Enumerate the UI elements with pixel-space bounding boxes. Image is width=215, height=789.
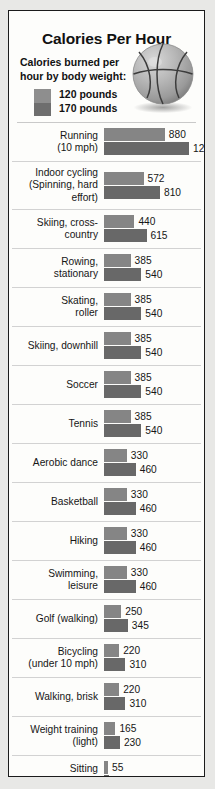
activity-label-line: Bicycling <box>12 646 98 658</box>
bar-value: 75 <box>113 775 124 777</box>
legend-label-120: 120 pounds <box>59 88 117 102</box>
bar-value: 460 <box>140 463 157 476</box>
bar-120lb <box>104 722 115 735</box>
bar-line-120lb: 572 <box>104 172 165 185</box>
bar-line-120lb: 330 <box>104 488 148 501</box>
bar-line-120lb: 220 <box>104 644 140 657</box>
bar-line-170lb: 310 <box>104 697 146 710</box>
activity-bars: 385540 <box>104 332 201 360</box>
bar-line-170lb: 540 <box>104 268 162 281</box>
basketball-svg <box>131 42 195 106</box>
bar-120lb <box>104 254 131 267</box>
bar-170lb <box>104 736 120 749</box>
bar-value: 540 <box>145 268 162 281</box>
bar-120lb <box>104 449 127 462</box>
activity-label-line: (under 10 mph) <box>12 658 98 670</box>
bar-value: 810 <box>164 186 181 199</box>
activity-bars: 330460 <box>104 527 201 555</box>
activity-label: Bicycling(under 10 mph) <box>12 646 104 671</box>
bar-line-170lb: 230 <box>104 736 141 749</box>
activity-label-line: Soccer <box>12 379 98 391</box>
activity-label-line: Basketball <box>12 496 98 508</box>
activity-row: Sitting(Watching TV)5575 <box>12 756 201 777</box>
bar-value: 540 <box>145 424 162 437</box>
bar-line-170lb: 460 <box>104 463 157 476</box>
legend-swatch <box>34 89 51 116</box>
activity-label-line: effort) <box>12 192 98 204</box>
activity-label-line: Tennis <box>12 418 98 430</box>
bar-170lb <box>104 229 147 242</box>
activity-label: Basketball <box>12 496 104 508</box>
activity-label-line: Skiing, cross- <box>12 217 98 229</box>
activity-label-line: stationary <box>12 268 98 280</box>
bar-line-120lb: 880 <box>104 128 186 141</box>
activity-label: Hiking <box>12 535 104 547</box>
bar-120lb <box>104 644 119 657</box>
activity-bars: 330460 <box>104 449 201 477</box>
bar-120lb <box>104 172 144 185</box>
activity-row: Soccer385540 <box>12 366 201 405</box>
activity-label-line: Skating, <box>12 295 98 307</box>
bar-value: 460 <box>140 580 157 593</box>
activity-bars: 572810 <box>104 172 201 200</box>
bar-value: 330 <box>131 566 148 579</box>
activity-label: Rowing,stationary <box>12 256 104 281</box>
bar-line-120lb: 385 <box>104 254 152 267</box>
bar-170lb <box>104 619 128 632</box>
activity-label: Indoor cycling(Spinning, hardeffort) <box>12 167 104 204</box>
activity-row: Hiking330460 <box>12 522 201 561</box>
activity-bars: 330460 <box>104 566 201 594</box>
activity-label-line: Sitting <box>12 763 98 775</box>
bar-120lb <box>104 410 131 423</box>
activity-row: Skiing, downhill385540 <box>12 327 201 366</box>
activity-label: Tennis <box>12 418 104 430</box>
bar-value: 385 <box>135 371 152 384</box>
bar-170lb <box>104 658 125 671</box>
activity-row: Walking, brisk220310 <box>12 678 201 717</box>
activity-label: Skiing, cross-country <box>12 217 104 242</box>
activity-row: Rowing,stationary385540 <box>12 249 201 288</box>
bar-value: 330 <box>131 488 148 501</box>
bar-line-170lb: 460 <box>104 502 157 515</box>
bar-170lb <box>104 142 189 155</box>
activity-row: Indoor cycling(Spinning, hardeffort)5728… <box>12 162 201 210</box>
bar-120lb <box>104 683 119 696</box>
activity-bars: 385540 <box>104 254 201 282</box>
bar-line-120lb: 250 <box>104 605 142 618</box>
bar-line-120lb: 330 <box>104 527 148 540</box>
activity-label-line: Walking, brisk <box>12 691 98 703</box>
bar-120lb <box>104 488 127 501</box>
bar-value: 880 <box>169 128 186 141</box>
activity-label: Walking, brisk <box>12 691 104 703</box>
bar-line-120lb: 330 <box>104 449 148 462</box>
activity-bars: 385540 <box>104 410 201 438</box>
activity-label: Swimming,leisure <box>12 568 104 593</box>
activity-row: Skating,roller385540 <box>12 288 201 327</box>
bar-line-170lb: 810 <box>104 186 181 199</box>
activity-row: Tennis385540 <box>12 405 201 444</box>
bar-value: 385 <box>135 410 152 423</box>
bar-value: 385 <box>135 332 152 345</box>
bar-value: 310 <box>129 697 146 710</box>
bar-value: 385 <box>135 254 152 267</box>
bar-170lb <box>104 463 136 476</box>
bar-value: 220 <box>123 683 140 696</box>
activity-label: Sitting(Watching TV) <box>12 763 104 777</box>
activity-label-line: (Watching TV) <box>12 775 98 777</box>
bar-value: 460 <box>140 502 157 515</box>
activity-bars: 5575 <box>104 761 201 777</box>
bar-120lb <box>104 215 134 228</box>
activity-label: Golf (walking) <box>12 613 104 625</box>
bar-value: 220 <box>123 644 140 657</box>
bar-value: 165 <box>119 722 136 735</box>
bar-value: 330 <box>131 527 148 540</box>
bar-value: 440 <box>138 215 155 228</box>
activity-label-line: (10 mph) <box>12 142 98 154</box>
bar-value: 385 <box>135 293 152 306</box>
bar-170lb <box>104 424 141 437</box>
activity-label-line: country <box>12 229 98 241</box>
bar-line-120lb: 385 <box>104 332 152 345</box>
activity-bars: 8801230 <box>104 128 201 156</box>
bar-line-170lb: 460 <box>104 580 157 593</box>
basketball-icon <box>127 42 199 118</box>
